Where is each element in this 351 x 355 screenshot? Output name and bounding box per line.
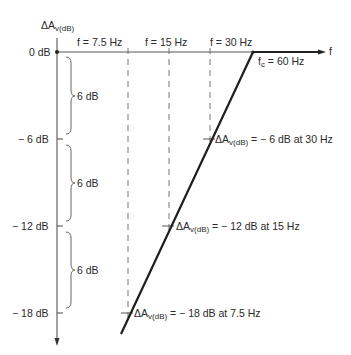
x-marker-15hz-label: f = 15 Hz — [145, 37, 187, 48]
bode-plot-graphic — [0, 0, 351, 355]
brace-2 — [66, 145, 75, 221]
x-marker-30hz-label: f = 30 Hz — [210, 37, 252, 48]
brace-3 — [66, 232, 75, 308]
annotation-15hz: ΔAv(dB) = − 12 dB at 15 Hz — [176, 221, 300, 234]
brace-1 — [66, 57, 75, 134]
brace-label-2: 6 dB — [77, 178, 99, 189]
x-axis-arrow-icon — [318, 50, 326, 55]
y-tick-0db: 0 dB — [29, 47, 51, 58]
rolloff-slope-line — [121, 52, 253, 334]
x-marker-7-5hz-label: f = 7.5 Hz — [77, 37, 122, 48]
y-tick-minus-18db: − 18 dB — [12, 308, 49, 319]
annotation-30hz: ΔAv(dB) = − 6 dB at 30 Hz — [215, 134, 333, 147]
annotation-7-5hz: ΔAv(dB) = − 18 dB at 7.5 Hz — [134, 308, 261, 321]
y-axis-arrow-icon — [55, 338, 60, 346]
cutoff-frequency-label: fc = 60 Hz — [258, 56, 304, 69]
brace-label-1: 6 dB — [77, 91, 99, 102]
y-tick-minus-6db: − 6 dB — [18, 134, 49, 145]
x-axis-label: f — [329, 46, 332, 57]
y-axis-label: ΔAv(dB) — [41, 20, 74, 33]
brace-label-3: 6 dB — [77, 265, 99, 276]
origin-dot — [55, 50, 59, 54]
y-tick-minus-12db: − 12 dB — [12, 221, 49, 232]
